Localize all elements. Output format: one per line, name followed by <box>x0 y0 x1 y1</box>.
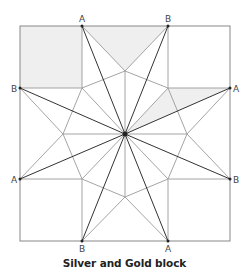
shaded-top-triangle <box>82 26 168 71</box>
figure-caption: Silver and Gold block <box>0 257 249 269</box>
label-bottom-left: B <box>79 244 85 254</box>
label-left-top: B <box>11 84 17 94</box>
label-top-left: A <box>79 14 86 24</box>
label-right-top: A <box>233 84 240 94</box>
silver-and-gold-block-diagram: A B A B A B A B <box>0 0 249 280</box>
label-left-bottom: A <box>11 175 18 185</box>
center-point <box>123 132 128 137</box>
label-top-right: B <box>165 14 171 24</box>
label-bottom-right: A <box>165 244 172 254</box>
shaded-corner-square-top-left <box>20 26 82 88</box>
label-right-bottom: B <box>233 175 239 185</box>
